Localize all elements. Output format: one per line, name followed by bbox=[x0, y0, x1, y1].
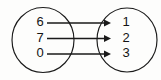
codomain-element: 1 bbox=[122, 14, 129, 29]
mapping-diagram: 6 7 0 1 2 3 bbox=[0, 0, 161, 80]
domain-element: 0 bbox=[36, 45, 43, 60]
codomain-element-labels: 1 2 3 bbox=[122, 14, 129, 60]
arrow-head-icon bbox=[104, 35, 111, 42]
arrow-group bbox=[47, 20, 111, 58]
mapping-arrow bbox=[47, 20, 111, 27]
arrow-head-icon bbox=[104, 51, 111, 58]
codomain-element: 3 bbox=[122, 45, 129, 60]
mapping-diagram-canvas: 6 7 0 1 2 3 bbox=[0, 0, 161, 80]
arrow-head-icon bbox=[104, 20, 111, 27]
domain-element: 6 bbox=[36, 14, 43, 29]
mapping-arrow bbox=[47, 35, 111, 42]
codomain-element: 2 bbox=[122, 30, 129, 45]
domain-element: 7 bbox=[36, 30, 43, 45]
domain-element-labels: 6 7 0 bbox=[36, 14, 43, 60]
